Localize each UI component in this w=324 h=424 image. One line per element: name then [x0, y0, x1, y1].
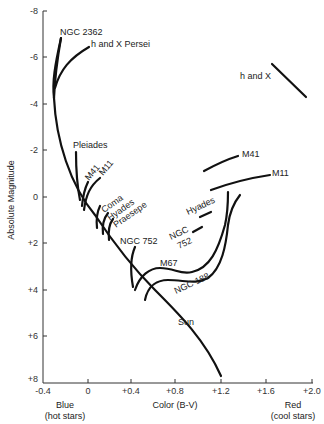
y-ticks [43, 11, 47, 336]
label-pleiades: Pleiades [73, 140, 108, 150]
x-ticks [88, 379, 312, 383]
svg-text:+4: +4 [28, 285, 38, 295]
svg-text:-8: -8 [30, 6, 38, 16]
m41-giants-curve [204, 156, 238, 171]
svg-text:+6: +6 [28, 331, 38, 341]
x-axis-title: Color (B-V) [152, 400, 197, 410]
h-x-giants-curve [272, 64, 306, 97]
y-axis-title: Absolute Magnitude [6, 160, 16, 240]
label-ngc2362: NGC 2362 [60, 27, 103, 37]
pleiades-curve [76, 152, 80, 200]
label-m67: M67 [160, 258, 178, 268]
x-tick-labels: -0.4 0 +0.4 +0.8 +1.2 +1.6 +2.0 [35, 386, 321, 396]
label-m41-giants: M41 [242, 149, 260, 159]
hot-stars-label: (hot stars) [45, 411, 86, 421]
svg-text:+2: +2 [28, 238, 38, 248]
label-m11: M11 [97, 158, 115, 177]
svg-text:+8: +8 [28, 374, 38, 384]
svg-text:+1.2: +1.2 [212, 386, 230, 396]
y-tick-labels: -8 -6 -4 -2 0 +2 +4 +6 +8 [28, 6, 38, 384]
label-sun: Sun [178, 317, 194, 327]
svg-text:+0.4: +0.4 [122, 386, 140, 396]
svg-text:0: 0 [33, 192, 38, 202]
svg-text:-2: -2 [30, 145, 38, 155]
label-h-x-persei: h and X Persei [91, 39, 150, 49]
label-h-x: h and X [240, 71, 271, 81]
h-x-persei-curve [55, 47, 89, 88]
svg-text:+0.8: +0.8 [166, 386, 184, 396]
svg-text:+1.6: +1.6 [257, 386, 275, 396]
red-label: Red [285, 400, 302, 410]
coma-curve [97, 206, 100, 228]
m11-giants-curve [211, 175, 270, 190]
label-ngc752: NGC 752 [120, 236, 158, 246]
svg-text:+2.0: +2.0 [303, 386, 321, 396]
svg-text:-4: -4 [30, 99, 38, 109]
label-hyades-giants: Hyades [185, 195, 217, 217]
label-ngc188: NGC 188 [173, 271, 211, 296]
hr-diagram-chart: -8 -6 -4 -2 0 +2 +4 +6 +8 -0.4 0 +0.4 +0… [0, 0, 324, 424]
ngc752-giants-curve [193, 227, 202, 232]
cool-stars-label: (cool stars) [271, 411, 316, 421]
hyades-giants-curve [200, 212, 211, 217]
svg-text:0: 0 [85, 386, 90, 396]
svg-text:-0.4: -0.4 [35, 386, 51, 396]
svg-text:-6: -6 [30, 52, 38, 62]
blue-label: Blue [56, 400, 74, 410]
label-m11-giants: M11 [272, 168, 289, 178]
